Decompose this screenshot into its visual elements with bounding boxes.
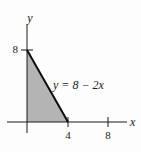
y-tick-label-8: 8 — [13, 43, 19, 55]
equation-label: y = 8 − 2x — [52, 78, 105, 92]
x-tick-label-4: 4 — [65, 129, 71, 141]
x-tick-label-8: 8 — [105, 129, 111, 141]
x-axis-label: x — [129, 115, 136, 129]
plot-svg: 8 4 8 y x y = 8 − 2x — [0, 0, 141, 152]
y-axis-label: y — [26, 11, 33, 25]
figure-canvas: 8 4 8 y x y = 8 − 2x — [0, 0, 141, 152]
